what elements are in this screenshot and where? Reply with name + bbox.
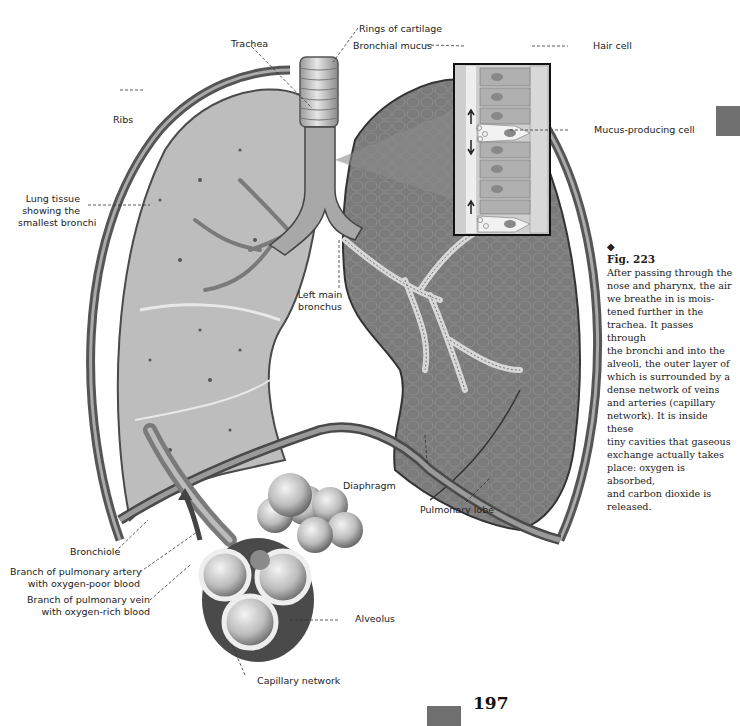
label-line: smallest bronchi (18, 217, 80, 229)
label-line: showing the (18, 205, 80, 217)
label-bronchial-mucus: Bronchial mucus (353, 40, 432, 52)
label-hair-cell: Hair cell (593, 40, 632, 52)
label-alveolus: Alveolus (355, 613, 395, 625)
caption-line: network). It is inside these (607, 409, 735, 435)
caption-line: dense network of veins (607, 383, 735, 396)
caption-line: released. (607, 500, 735, 513)
figure-caption: ◆ Fig. 223 After passing through the nos… (607, 241, 735, 513)
caption-line: we breathe in is mois- (607, 292, 735, 305)
caption-line: tiny cavities that gaseous (607, 435, 735, 448)
label-line: Branch of pulmonary vein (10, 594, 150, 606)
page-number-tab (427, 706, 461, 726)
label-pulmonary-vein: Branch of pulmonary vein with oxygen-ric… (10, 594, 150, 618)
caption-line: place: oxygen is absorbed, (607, 461, 735, 487)
label-line: Lung tissue (18, 193, 80, 205)
label-line: Branch of pulmonary artery (10, 566, 140, 578)
caption-line: and carbon dioxide is (607, 487, 735, 500)
diamond-marker-icon: ◆ (607, 241, 735, 253)
caption-line: and arteries (capillary (607, 396, 735, 409)
label-lung-tissue: Lung tissue showing the smallest bronchi (18, 193, 80, 229)
caption-line: After passing through the (607, 266, 735, 279)
caption-line: trachea. It passes through (607, 318, 735, 344)
label-rings-of-cartilage: Rings of cartilage (359, 23, 442, 35)
caption-line: which is surrounded by a (607, 370, 735, 383)
label-line: bronchus (290, 301, 350, 313)
caption-line: tened further in the (607, 305, 735, 318)
label-pulmonary-lobe: Pulmonary lobe (420, 504, 494, 516)
label-capillary-network: Capillary network (257, 675, 340, 687)
figure-number: Fig. 223 (607, 253, 735, 266)
caption-line: exchange actually takes (607, 448, 735, 461)
label-diaphragm: Diaphragm (343, 480, 396, 492)
caption-line: the bronchi and into the (607, 344, 735, 357)
caption-line: alveoli, the outer layer of (607, 357, 735, 370)
label-ribs: Ribs (113, 114, 133, 126)
label-bronchiole: Bronchiole (70, 546, 120, 558)
chapter-side-tab (716, 106, 740, 136)
page-number: 197 (473, 693, 509, 713)
trachea (300, 57, 338, 127)
label-trachea: Trachea (231, 38, 268, 50)
label-left-main-bronchus: Left main bronchus (290, 289, 350, 313)
label-pulmonary-artery: Branch of pulmonary artery with oxygen-p… (10, 566, 140, 590)
label-line: with oxygen-poor blood (10, 578, 140, 590)
label-line: Left main (290, 289, 350, 301)
label-line: with oxygen-rich blood (10, 606, 150, 618)
label-mucus-producing-cell: Mucus-producing cell (594, 124, 695, 136)
caption-line: nose and pharynx, the air (607, 279, 735, 292)
